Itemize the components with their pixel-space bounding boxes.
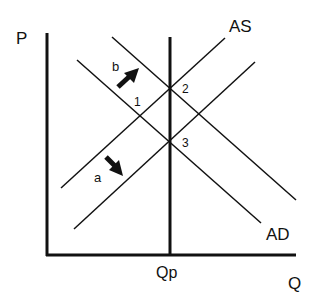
point-label-1: 1 [134, 95, 141, 109]
ad-label: AD [266, 225, 290, 244]
shift-label-b: b [112, 59, 119, 74]
arrow-b-icon [118, 68, 139, 87]
shift-label-a: a [94, 170, 102, 185]
as-ad-diagram: P Q Qp AS AD b a 1 2 3 [0, 0, 317, 306]
point-label-3: 3 [182, 136, 189, 150]
qp-label: Qp [156, 264, 177, 281]
x-axis-label: Q [288, 274, 301, 293]
arrow-a-icon [106, 157, 123, 176]
ad-curve-upper [112, 37, 296, 200]
as-curve-lower [74, 62, 255, 229]
y-axis-label: P [16, 29, 27, 48]
point-label-2: 2 [182, 82, 189, 96]
as-label: AS [229, 17, 252, 36]
